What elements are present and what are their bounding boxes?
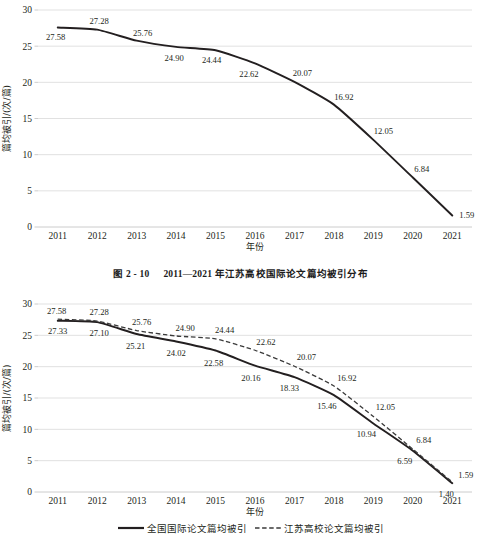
series-line xyxy=(58,319,453,482)
y-tick-label: 0 xyxy=(27,222,32,232)
caption-title: 2011—2021 年江苏高校国际论文篇均被引分布 xyxy=(163,269,367,279)
data-label: 27.28 xyxy=(90,16,109,26)
x-axis-title: 年份 xyxy=(246,506,264,517)
x-tick-label: 2021 xyxy=(443,231,462,241)
data-label: 16.92 xyxy=(337,373,356,383)
data-label: 1.59 xyxy=(458,470,473,480)
legend-label: 江苏高校论文篇均被引 xyxy=(284,523,384,534)
data-label: 6.84 xyxy=(416,435,432,445)
data-label: 1.59 xyxy=(459,210,474,220)
x-tick-label: 2019 xyxy=(364,231,383,241)
data-label: 22.58 xyxy=(204,358,223,368)
x-tick-label: 2015 xyxy=(206,231,225,241)
data-label: 10.94 xyxy=(357,429,377,439)
data-label: 27.58 xyxy=(46,32,65,42)
data-label: 24.90 xyxy=(175,323,194,333)
chart-bottom-svg: 0510152025302011201220132014201520162017… xyxy=(0,292,481,547)
x-tick-label: 2011 xyxy=(48,231,67,241)
x-tick-label: 2020 xyxy=(403,231,422,241)
y-axis-title: 篇均被引/(次/篇) xyxy=(1,85,12,152)
data-label: 1.40 xyxy=(439,489,454,499)
y-tick-label: 10 xyxy=(23,150,33,160)
figure-caption: 图 2 - 102011—2021 年江苏高校国际论文篇均被引分布 xyxy=(0,266,481,280)
data-label: 24.44 xyxy=(202,55,222,65)
legend-label: 全国国际论文篇均被引 xyxy=(147,523,247,534)
x-axis-title: 年份 xyxy=(246,241,264,252)
y-tick-label: 25 xyxy=(23,42,33,52)
y-tick-label: 10 xyxy=(23,425,33,435)
x-tick-label: 2020 xyxy=(403,496,422,506)
x-tick-label: 2015 xyxy=(206,496,225,506)
chart-bottom: 0510152025302011201220132014201520162017… xyxy=(0,292,481,547)
x-tick-label: 2016 xyxy=(246,231,265,241)
chart-top-svg: 0510152025302011201220132014201520162017… xyxy=(0,0,481,262)
x-tick-label: 2019 xyxy=(364,496,383,506)
series-line xyxy=(58,28,453,216)
y-tick-label: 5 xyxy=(27,186,32,196)
data-label: 22.62 xyxy=(256,337,275,347)
y-tick-label: 15 xyxy=(23,393,33,403)
data-label: 27.28 xyxy=(90,307,109,317)
x-tick-label: 2018 xyxy=(324,231,343,241)
data-label: 15.46 xyxy=(317,401,337,411)
data-label: 24.44 xyxy=(215,325,235,335)
data-label: 12.05 xyxy=(376,402,395,412)
x-tick-label: 2017 xyxy=(285,496,304,506)
y-tick-label: 15 xyxy=(23,114,33,124)
chart-top: 0510152025302011201220132014201520162017… xyxy=(0,0,481,262)
y-axis-title: 篇均被引/(次/篇) xyxy=(1,364,12,431)
data-label: 12.05 xyxy=(374,126,393,136)
data-label: 24.90 xyxy=(164,53,183,63)
x-tick-label: 2014 xyxy=(167,496,186,506)
x-tick-label: 2013 xyxy=(127,231,146,241)
y-tick-label: 20 xyxy=(23,78,33,88)
x-tick-label: 2018 xyxy=(324,496,343,506)
y-tick-label: 0 xyxy=(27,487,32,497)
y-tick-label: 30 xyxy=(23,5,33,15)
x-tick-label: 2017 xyxy=(285,231,304,241)
cutoff-text xyxy=(0,538,481,547)
data-label: 20.07 xyxy=(297,352,317,362)
x-tick-label: 2014 xyxy=(167,231,186,241)
data-label: 16.92 xyxy=(334,92,353,102)
x-tick-label: 2013 xyxy=(127,496,146,506)
data-label: 25.76 xyxy=(132,317,152,327)
x-tick-label: 2012 xyxy=(88,231,107,241)
y-tick-label: 30 xyxy=(23,299,33,309)
x-tick-label: 2012 xyxy=(88,496,107,506)
figure-page: 0510152025302011201220132014201520162017… xyxy=(0,0,481,547)
y-tick-label: 20 xyxy=(23,362,33,372)
data-label: 6.84 xyxy=(414,164,430,174)
data-label: 25.76 xyxy=(133,28,153,38)
x-tick-label: 2016 xyxy=(246,496,265,506)
data-label: 20.16 xyxy=(241,373,261,383)
data-label: 27.33 xyxy=(48,326,67,336)
data-label: 25.21 xyxy=(126,341,145,351)
data-label: 22.62 xyxy=(239,69,258,79)
data-label: 6.59 xyxy=(397,456,412,466)
y-tick-label: 25 xyxy=(23,331,33,341)
data-label: 20.07 xyxy=(293,68,313,78)
data-label: 27.10 xyxy=(90,328,109,338)
data-label: 24.02 xyxy=(166,348,185,358)
data-label: 18.33 xyxy=(280,383,299,393)
caption-number: 图 2 - 10 xyxy=(113,269,149,279)
y-tick-label: 5 xyxy=(27,456,32,466)
data-label: 27.58 xyxy=(47,306,66,316)
x-tick-label: 2011 xyxy=(48,496,67,506)
page-bottom-cutoff xyxy=(0,538,481,547)
